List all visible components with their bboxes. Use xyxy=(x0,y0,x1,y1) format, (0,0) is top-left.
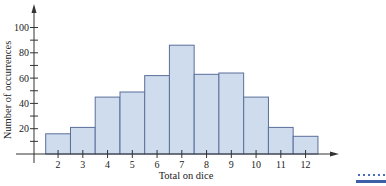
bar-5 xyxy=(120,92,145,154)
x-tick-label: 6 xyxy=(155,159,160,170)
bar-9 xyxy=(219,73,244,154)
x-tick-label: 7 xyxy=(179,159,184,170)
y-tick-label: 100 xyxy=(14,22,29,33)
bar-6 xyxy=(145,76,170,154)
x-tick-label: 9 xyxy=(229,159,234,170)
y-tick-label: 80 xyxy=(19,47,29,58)
bar-8 xyxy=(194,74,219,154)
x-tick-label: 3 xyxy=(80,159,85,170)
bar-10 xyxy=(244,97,269,154)
corner-decoration xyxy=(356,175,386,183)
x-tick-label: 11 xyxy=(276,159,286,170)
x-tick-label: 2 xyxy=(56,159,61,170)
x-tick-label: 8 xyxy=(204,159,209,170)
y-tick-label: 40 xyxy=(19,98,29,109)
x-tick-label: 4 xyxy=(105,159,110,170)
y-axis-arrow-icon xyxy=(32,4,37,13)
histogram-chart: 20406080100 23456789101112 Number of occ… xyxy=(0,0,386,186)
y-tick-label: 60 xyxy=(19,73,29,84)
y-axis-title: Number of occurrences xyxy=(2,41,13,140)
x-tick-label: 5 xyxy=(130,159,135,170)
bar-7 xyxy=(169,45,194,154)
bars-group xyxy=(46,45,318,154)
y-tick-label: 20 xyxy=(19,123,29,134)
x-tick-label: 10 xyxy=(251,159,261,170)
x-tick-label: 12 xyxy=(301,159,311,170)
y-axis: 20406080100 xyxy=(14,4,38,163)
bar-4 xyxy=(95,97,120,154)
x-axis-arrow-icon xyxy=(330,152,339,157)
x-axis-title: Total on dice xyxy=(159,170,214,181)
